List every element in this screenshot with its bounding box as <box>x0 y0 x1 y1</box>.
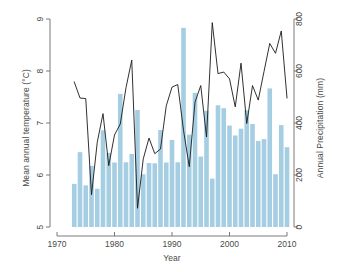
plot-canvas: 56789 0200400600800 19701980199020002010 <box>0 0 344 272</box>
left-axis: 56789 <box>35 16 50 229</box>
right-axis-tick-label: 600 <box>294 64 304 78</box>
precipitation-bar <box>170 140 175 227</box>
precipitation-bar <box>124 162 129 227</box>
precipitation-bar <box>147 163 152 227</box>
temperature-line <box>74 23 287 209</box>
precipitation-bar <box>95 189 100 227</box>
left-axis-tick-label: 5 <box>35 224 45 229</box>
right-axis-tick-label: 200 <box>294 168 304 182</box>
bottom-axis-tick-label: 1990 <box>163 239 182 249</box>
precipitation-bar <box>175 162 180 227</box>
precipitation-bar <box>72 184 77 227</box>
precipitation-bar <box>285 147 290 227</box>
right-axis-tick-label: 800 <box>294 12 304 26</box>
right-axis-tick-label: 0 <box>294 224 304 229</box>
precipitation-bar <box>210 179 215 227</box>
precipitation-bar <box>256 141 261 227</box>
precipitation-bar <box>193 93 198 227</box>
right-axis-tick-label: 400 <box>294 116 304 130</box>
precipitation-bar <box>262 139 267 227</box>
precipitation-bar <box>152 163 157 227</box>
y-axis-label-right: Annual Precipitation (mm) <box>315 53 325 203</box>
precipitation-bar <box>216 105 221 227</box>
precipitation-bar <box>164 163 169 227</box>
precipitation-bar <box>198 157 203 227</box>
precipitation-bar <box>78 152 83 227</box>
precipitation-bar <box>233 135 238 227</box>
precipitation-bar <box>112 163 117 227</box>
x-axis-label: Year <box>0 253 344 263</box>
precipitation-bar <box>250 124 255 227</box>
bottom-axis-tick-label: 1980 <box>105 239 124 249</box>
precipitation-bar <box>227 126 232 227</box>
precipitation-bar <box>158 130 163 227</box>
precipitation-bar <box>101 130 106 227</box>
precipitation-bar <box>239 129 244 227</box>
left-axis-tick-label: 6 <box>35 172 45 177</box>
left-axis-tick-label: 7 <box>35 120 45 125</box>
precipitation-bar <box>129 154 134 227</box>
bottom-axis-tick-label: 2010 <box>278 239 297 249</box>
bottom-axis: 19701980199020002010 <box>48 232 297 249</box>
climate-chart-figure: 56789 0200400600800 19701980199020002010… <box>0 0 344 272</box>
precipitation-bar <box>267 88 272 227</box>
precipitation-bar <box>221 108 226 227</box>
bottom-axis-tick-label: 1970 <box>48 239 67 249</box>
precipitation-bar <box>273 174 278 227</box>
left-axis-tick-label: 9 <box>35 16 45 21</box>
precipitation-bar <box>141 174 146 227</box>
precipitation-bar <box>244 110 249 227</box>
precipitation-bar <box>83 185 88 227</box>
y-axis-label-left: Mean annual temperature (°C) <box>21 53 31 203</box>
bottom-axis-tick-label: 2000 <box>220 239 239 249</box>
precipitation-bar <box>279 125 284 227</box>
left-axis-tick-label: 8 <box>35 68 45 73</box>
right-axis: 0200400600800 <box>294 12 304 230</box>
